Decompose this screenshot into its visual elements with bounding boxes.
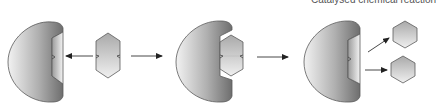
product-1 xyxy=(393,21,417,48)
substrate xyxy=(96,33,120,78)
product-2 xyxy=(391,56,415,83)
arrow-product-1 xyxy=(368,38,389,52)
enzyme-1 xyxy=(8,22,63,102)
enzyme-3 xyxy=(304,21,360,102)
enzyme-substrate-complex xyxy=(176,21,243,102)
